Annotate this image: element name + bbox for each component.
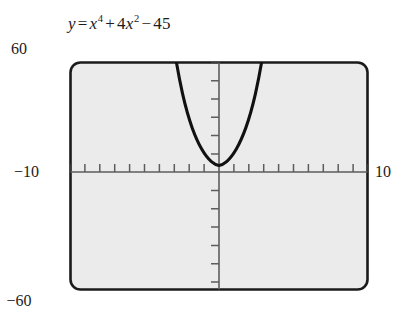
equation-plus: +	[103, 14, 117, 33]
graph-figure: y=x4+4x2−45 60 −60 −10 10	[0, 0, 416, 316]
equation-term2-coefficient: 4	[117, 14, 126, 33]
y-axis-max-label: 60	[0, 40, 416, 58]
x-axis-min-label: −10	[14, 163, 39, 181]
graph-canvas	[69, 61, 369, 291]
equation-minus: −	[139, 14, 153, 33]
equation-lhs: y	[68, 14, 76, 33]
equation-equals: =	[76, 14, 90, 33]
equation-term2-base: x	[126, 14, 134, 33]
plot-area	[69, 61, 369, 291]
x-axis-max-label: 10	[375, 163, 391, 181]
equation-constant: 45	[153, 14, 170, 33]
y-axis-min-label: −60	[0, 292, 416, 310]
equation-title: y=x4+4x2−45	[68, 14, 171, 34]
